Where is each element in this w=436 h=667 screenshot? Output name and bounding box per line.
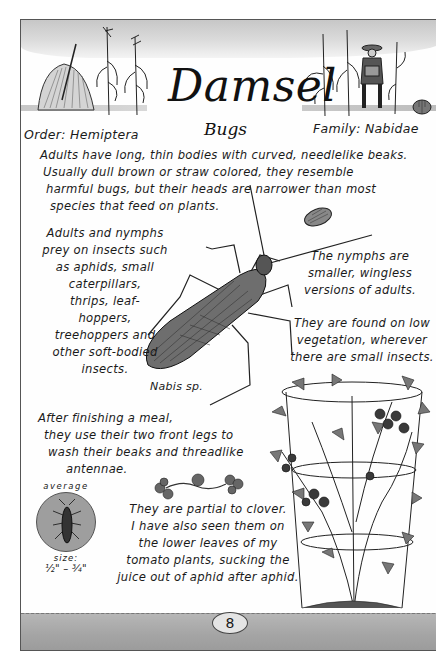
meal-paragraph: After finishing a meal, they use their t…	[38, 410, 263, 478]
size-value: ½" – ¾"	[26, 563, 106, 574]
damsel-bug-icon	[51, 499, 83, 547]
gardener-icon	[355, 42, 389, 112]
tomato-plant-icon	[262, 372, 436, 612]
nymph-icon	[300, 205, 334, 229]
order-label: Order: Hemiptera	[24, 127, 139, 142]
corn-stalk-icon	[387, 38, 407, 114]
page-number: 8	[212, 612, 248, 634]
pumpkin-icon	[412, 96, 432, 114]
nymphs-paragraph: The nymphs are smaller, wingless version…	[295, 248, 425, 299]
family-label: Family: Nabidae	[313, 121, 419, 136]
page-subtitle: Bugs	[204, 119, 247, 139]
clover-icon	[152, 472, 246, 500]
size-badge: average size: ½" – ¾"	[26, 481, 106, 574]
intro-paragraph: Adults have long, thin bodies with curve…	[40, 147, 436, 215]
size-badge-top-label: average	[26, 481, 106, 491]
haystack-icon	[36, 40, 96, 112]
prey-paragraph: Adults and nymphs prey on insects such a…	[30, 225, 180, 378]
size-badge-bottom-label: size:	[26, 553, 106, 563]
page-title: Damsel	[168, 64, 337, 108]
habitat-paragraph: They are found on low vegetation, wherev…	[288, 315, 436, 366]
corn-stalk-icon	[95, 27, 155, 117]
size-badge-circle	[36, 492, 96, 552]
specimen-caption: Nabis sp.	[150, 380, 203, 393]
